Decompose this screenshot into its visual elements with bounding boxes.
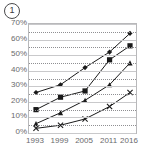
plot-area bbox=[28, 23, 137, 134]
circled-number-icon: 1 bbox=[4, 3, 20, 19]
x-axis: 19931999200520112016 bbox=[28, 136, 137, 148]
data-point-marker-square bbox=[58, 95, 63, 100]
gridline-dotted bbox=[29, 94, 136, 95]
gridline-solid bbox=[29, 40, 136, 41]
gridline-solid bbox=[29, 55, 136, 56]
data-point-marker-triangle bbox=[58, 110, 63, 115]
x-axis-tick-label: 2016 bbox=[120, 136, 138, 146]
x-axis-tick-label: 1993 bbox=[26, 136, 44, 146]
x-axis-tick-label: 2005 bbox=[75, 136, 93, 146]
gridline-solid bbox=[29, 24, 136, 25]
gridline-dotted bbox=[29, 79, 136, 80]
x-axis-tick-label: 1999 bbox=[51, 136, 69, 146]
gridline-solid bbox=[29, 102, 136, 103]
data-point-marker-square bbox=[82, 88, 87, 93]
data-point-marker-cross bbox=[107, 104, 112, 109]
y-axis-tick-label: 0% bbox=[1, 128, 27, 136]
y-axis-tick-label: 50% bbox=[1, 50, 27, 58]
gridline-dotted bbox=[29, 63, 136, 64]
y-axis-tick-label: 10% bbox=[1, 112, 27, 120]
y-axis: 0%10%20%30%40%50%60%70% bbox=[0, 23, 27, 134]
gridline-dotted bbox=[29, 47, 136, 48]
y-axis-tick-label: 20% bbox=[1, 97, 27, 105]
y-axis-tick-label: 40% bbox=[1, 66, 27, 74]
gridline-dotted bbox=[29, 110, 136, 111]
gridline-solid bbox=[29, 117, 136, 118]
gridline-solid bbox=[29, 71, 136, 72]
y-axis-tick-label: 30% bbox=[1, 81, 27, 89]
gridline-dotted bbox=[29, 32, 136, 33]
y-axis-tick-label: 70% bbox=[1, 19, 27, 27]
gridline-dotted bbox=[29, 125, 136, 126]
y-axis-tick-label: 60% bbox=[1, 35, 27, 43]
chart-figure: 1 0%10%20%30%40%50%60%70% 19931999200520… bbox=[0, 0, 143, 157]
gridline-solid bbox=[29, 133, 136, 134]
gridline-solid bbox=[29, 86, 136, 87]
x-axis-tick-label: 2011 bbox=[100, 136, 117, 146]
data-point-marker-square bbox=[107, 57, 112, 62]
